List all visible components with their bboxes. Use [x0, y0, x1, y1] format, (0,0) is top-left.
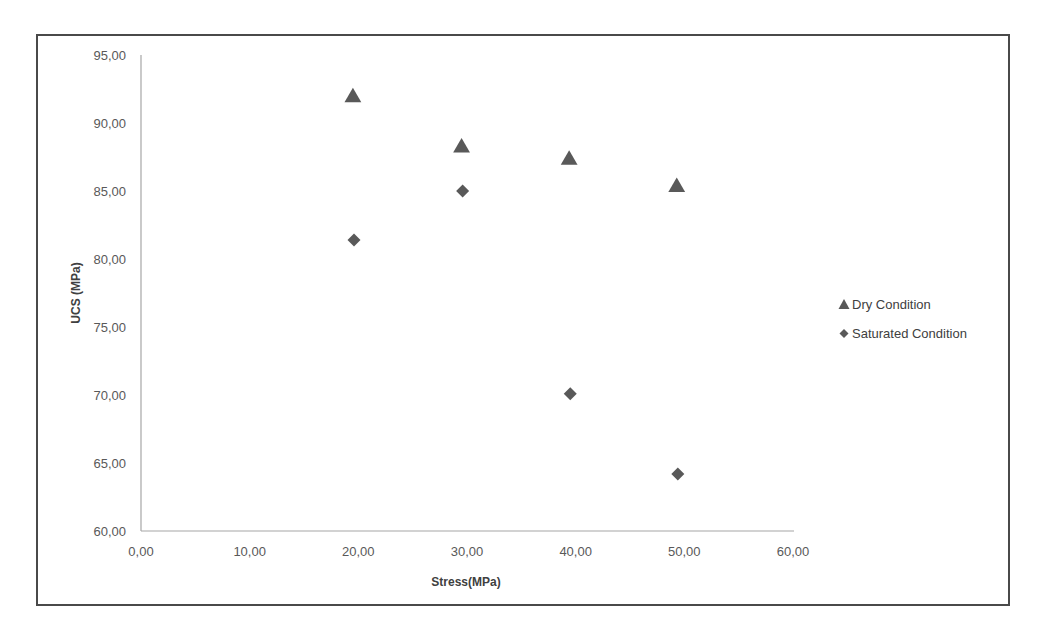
scatter-plot: 60,0065,0070,0075,0080,0085,0090,0095,00…: [0, 0, 1044, 643]
diamond-marker-icon: [564, 387, 577, 400]
y-tick-label: 70,00: [93, 388, 126, 403]
x-tick-label: 20,00: [342, 544, 375, 559]
triangle-marker-icon: [839, 299, 850, 309]
triangle-marker-icon: [345, 88, 362, 102]
y-tick-label: 90,00: [93, 116, 126, 131]
x-axis-tick-labels: 0,0010,0020,0030,0040,0050,0060,00: [128, 544, 809, 559]
series-saturated-condition: [347, 185, 684, 481]
triangle-marker-icon: [453, 138, 470, 152]
legend-label-dry: Dry Condition: [852, 297, 931, 312]
legend-item-dry: Dry Condition: [839, 297, 931, 312]
diamond-marker-icon: [671, 467, 684, 480]
x-tick-label: 10,00: [233, 544, 266, 559]
diamond-marker-icon: [347, 233, 360, 246]
x-tick-label: 50,00: [668, 544, 701, 559]
y-axis-title: UCS (MPa): [69, 262, 83, 323]
diamond-marker-icon: [840, 329, 849, 338]
y-axis-tick-labels: 60,0065,0070,0075,0080,0085,0090,0095,00: [93, 48, 126, 539]
y-tick-label: 95,00: [93, 48, 126, 63]
x-axis-title: Stress(MPa): [431, 575, 500, 589]
triangle-marker-icon: [561, 150, 578, 164]
y-tick-label: 65,00: [93, 456, 126, 471]
x-tick-label: 40,00: [559, 544, 592, 559]
legend-item-saturated: Saturated Condition: [840, 326, 967, 341]
x-tick-label: 60,00: [777, 544, 810, 559]
y-tick-label: 80,00: [93, 252, 126, 267]
series-dry-condition: [345, 88, 686, 192]
x-tick-label: 30,00: [451, 544, 484, 559]
diamond-marker-icon: [456, 185, 469, 198]
y-tick-label: 60,00: [93, 524, 126, 539]
legend-label-saturated: Saturated Condition: [852, 326, 967, 341]
y-tick-label: 85,00: [93, 184, 126, 199]
triangle-marker-icon: [668, 178, 685, 192]
y-tick-label: 75,00: [93, 320, 126, 335]
legend: Dry Condition Saturated Condition: [839, 297, 967, 341]
x-tick-label: 0,00: [128, 544, 153, 559]
